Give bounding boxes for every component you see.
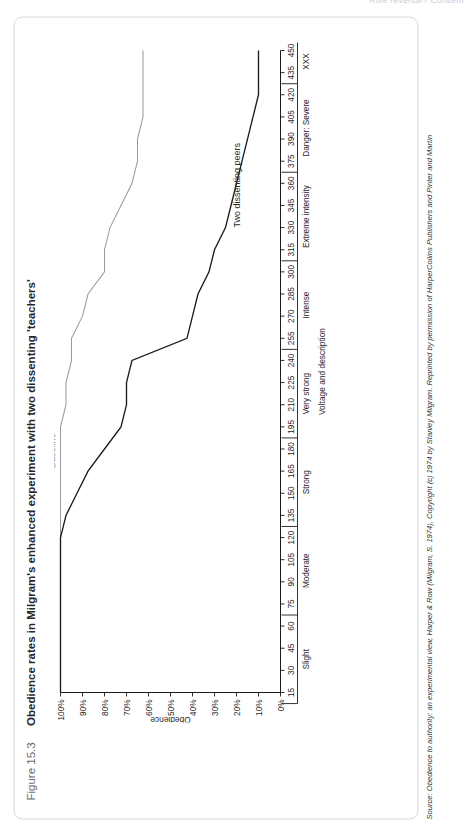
- x-tick-label: 345: [286, 198, 295, 212]
- x-axis-category-labels: SlightModerateStrongVery strongIntenseEx…: [301, 52, 310, 669]
- x-tick-label: 300: [286, 264, 295, 278]
- series-label-two-dissenting-peers: Two dissenting peers: [231, 142, 241, 227]
- x-tick-label: 420: [286, 87, 295, 101]
- category-label: Strong: [301, 469, 310, 494]
- x-tick-label: 240: [286, 353, 295, 367]
- series-label-baseline: Baseline: [54, 433, 56, 468]
- x-tick-label: 360: [286, 176, 295, 190]
- chart-series-group: [60, 50, 258, 692]
- series-line-baseline: [60, 50, 143, 692]
- x-tick-label: 150: [286, 485, 295, 499]
- figure-title-text: Obedience rates in Milgram's enhanced ex…: [24, 279, 36, 726]
- y-tick-label: 80%: [100, 699, 109, 715]
- x-tick-label: 135: [286, 508, 295, 522]
- source-lead: Source:: [424, 793, 433, 819]
- figure-card: Figure 15.3 Obedience rates in Milgram's…: [13, 16, 418, 819]
- x-tick-label: 75: [286, 598, 295, 608]
- x-tick-label: 195: [286, 419, 295, 433]
- y-tick-label: 100%: [56, 699, 65, 720]
- line-chart-svg: 1530456075901051201351501651801952102252…: [54, 42, 354, 722]
- category-label: Extreme intensity: [301, 184, 310, 248]
- series-line-two-dissenting-peers: [60, 50, 258, 692]
- y-tick-label: 10%: [254, 699, 263, 715]
- y-tick-label: 20%: [232, 699, 241, 715]
- y-tick-label: 90%: [78, 699, 87, 715]
- x-axis-tick-labels: 1530456075901051201351501651801952102252…: [286, 43, 295, 697]
- x-tick-label: 15: [286, 687, 295, 697]
- x-tick-label: 90: [286, 576, 295, 586]
- y-tick-label: 30%: [210, 699, 219, 715]
- x-tick-label: 435: [286, 65, 295, 79]
- figure-source-note: Source: Obedience to authority: an exper…: [423, 19, 434, 819]
- x-tick-label: 285: [286, 286, 295, 300]
- x-tick-label: 315: [286, 242, 295, 256]
- x-tick-label: 165: [286, 463, 295, 477]
- figure-number: Figure 15.3: [24, 742, 36, 800]
- rotated-figure-container: Figure 15.3 Obedience rates in Milgram's…: [0, 0, 470, 835]
- x-tick-label: 210: [286, 397, 295, 411]
- x-tick-label: 45: [286, 643, 295, 653]
- x-tick-label: 405: [286, 109, 295, 123]
- x-tick-label: 105: [286, 552, 295, 566]
- y-tick-label: 0%: [276, 699, 285, 711]
- x-tick-label: 30: [286, 665, 295, 675]
- category-label: Slight: [301, 648, 310, 669]
- x-tick-label: 180: [286, 441, 295, 455]
- x-tick-label: 270: [286, 308, 295, 322]
- x-tick-label: 450: [286, 43, 295, 57]
- chart-plot-area: 1530456075901051201351501651801952102252…: [54, 42, 354, 722]
- category-label: Danger: Severe: [301, 98, 310, 156]
- category-label: XXX: [301, 52, 310, 69]
- series-inline-labels: BaselineTwo dissenting peers: [54, 142, 241, 468]
- x-axis-title: Voltage and description: [316, 327, 326, 414]
- category-label: Very strong: [301, 372, 310, 414]
- x-tick-label: 225: [286, 375, 295, 389]
- figure-title: Figure 15.3 Obedience rates in Milgram's…: [24, 279, 36, 800]
- axis-titles: Voltage and descriptionObedience: [149, 327, 326, 722]
- y-tick-label: 70%: [122, 699, 131, 715]
- x-tick-label: 120: [286, 530, 295, 544]
- y-axis-title: Obedience: [149, 714, 190, 722]
- y-tick-label: 50%: [166, 699, 175, 715]
- y-tick-label: 40%: [188, 699, 197, 715]
- chart-axes: [60, 42, 297, 703]
- category-label: Intense: [301, 291, 310, 318]
- source-text: Obedience to authority: an experimental …: [424, 134, 433, 790]
- x-tick-label: 255: [286, 331, 295, 345]
- x-tick-label: 375: [286, 153, 295, 167]
- x-tick-label: 60: [286, 621, 295, 631]
- category-label: Moderate: [301, 553, 310, 588]
- y-tick-label: 60%: [144, 699, 153, 715]
- x-tick-label: 330: [286, 220, 295, 234]
- x-tick-label: 390: [286, 131, 295, 145]
